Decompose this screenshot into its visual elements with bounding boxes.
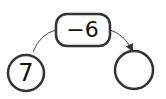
- output-arrow: [110, 30, 132, 50]
- operation-label: −6: [56, 15, 109, 45]
- operation-diagram: −6 7: [0, 0, 166, 99]
- input-value: 7: [7, 54, 45, 92]
- output-value: [115, 51, 153, 89]
- input-connector: [33, 30, 56, 52]
